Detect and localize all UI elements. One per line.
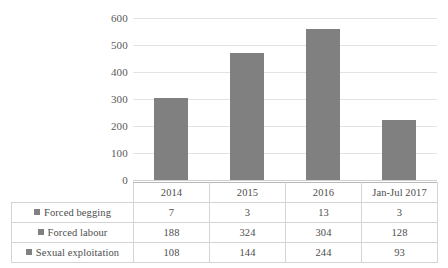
legend-label: Forced begging	[44, 207, 111, 218]
y-axis-tick-500: 500	[111, 40, 128, 51]
y-axis-tick-300: 300	[111, 94, 128, 105]
cell-forced-labour-2016: 304	[286, 223, 362, 243]
y-axis: 600 500 400 300 200 100 0	[92, 6, 128, 182]
cell-forced-labour-2014: 188	[134, 223, 210, 243]
cell-forced-begging-2014: 7	[134, 203, 210, 223]
y-axis-tick-400: 400	[111, 67, 128, 78]
plot-area	[133, 6, 437, 182]
y-axis-tick-600: 600	[111, 13, 128, 24]
table-row: Sexual exploitation 108 144 244 93	[12, 243, 438, 263]
legend-label: Forced labour	[48, 227, 108, 238]
table-row: Forced labour 188 324 304 128	[12, 223, 438, 243]
table-column-header-jan-jul-2017: Jan-Jul 2017	[362, 183, 438, 203]
legend-swatch-icon	[26, 249, 32, 255]
cell-forced-labour-2015: 324	[210, 223, 286, 243]
bar-slot	[361, 6, 437, 182]
bars-layer	[133, 6, 437, 182]
cell-forced-labour-jan-jul-2017: 128	[362, 223, 438, 243]
table-column-header-2014: 2014	[134, 183, 210, 203]
bar-slot	[285, 6, 361, 182]
cell-sexual-exploitation-jan-jul-2017: 93	[362, 243, 438, 263]
table-column-header-2015: 2015	[210, 183, 286, 203]
cell-forced-begging-jan-jul-2017: 3	[362, 203, 438, 223]
bar-2016[interactable]	[306, 29, 340, 180]
legend-entry-forced-begging: Forced begging	[12, 203, 134, 223]
bar-slot	[209, 6, 285, 182]
legend-label: Sexual exploitation	[36, 247, 119, 258]
y-axis-tick-100: 100	[111, 148, 128, 159]
table-column-header-2016: 2016	[286, 183, 362, 203]
table-row: Forced begging 7 3 13 3	[12, 203, 438, 223]
bar-2015[interactable]	[230, 53, 264, 180]
chart-data-table: 2014 2015 2016 Jan-Jul 2017 Forced beggi…	[11, 182, 438, 263]
cell-sexual-exploitation-2016: 244	[286, 243, 362, 263]
cell-forced-begging-2016: 13	[286, 203, 362, 223]
legend-entry-sexual-exploitation: Sexual exploitation	[12, 243, 134, 263]
bar-2014[interactable]	[154, 98, 188, 180]
stacked-bar-chart-with-data-table: 600 500 400 300 200 100 0 2014	[0, 0, 448, 268]
legend-swatch-icon	[34, 209, 40, 215]
legend-entry-forced-labour: Forced labour	[12, 223, 134, 243]
bar-slot	[133, 6, 209, 182]
cell-sexual-exploitation-2015: 144	[210, 243, 286, 263]
cell-forced-begging-2015: 3	[210, 203, 286, 223]
plot-wrapper: 600 500 400 300 200 100 0	[0, 6, 448, 190]
bar-jan-jul-2017[interactable]	[382, 120, 416, 180]
cell-sexual-exploitation-2014: 108	[134, 243, 210, 263]
y-axis-tick-200: 200	[111, 121, 128, 132]
legend-swatch-icon	[38, 229, 44, 235]
table-corner-cell	[12, 183, 134, 203]
table-header-row: 2014 2015 2016 Jan-Jul 2017	[12, 183, 438, 203]
